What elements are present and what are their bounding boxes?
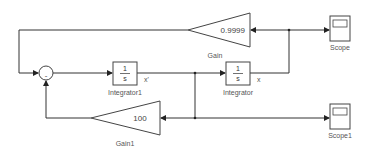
branch-point: [194, 72, 197, 75]
gain1-value: 100: [133, 114, 147, 123]
gain1-block[interactable]: 100: [91, 101, 160, 135]
signal-label-x: x: [257, 76, 261, 83]
integrator1-numerator: 1: [123, 65, 127, 72]
integrator1-block[interactable]: 1 s: [113, 62, 137, 85]
branch-point: [288, 29, 291, 32]
integrator-block[interactable]: 1 s: [226, 62, 250, 85]
integrator-denominator: s: [236, 75, 240, 82]
scope-label: Scope: [330, 44, 350, 52]
sum-sign: -: [45, 71, 48, 80]
scope-screen-icon: [333, 20, 347, 27]
gain1-label: Gain1: [116, 140, 135, 147]
integrator1-denominator: s: [123, 75, 127, 82]
gain-label: Gain: [208, 52, 223, 59]
gain-block[interactable]: 0.9999: [188, 13, 250, 47]
wire-integrator-out[interactable]: [250, 30, 289, 73]
branch-point: [194, 117, 197, 120]
signal-label-xprime: x': [144, 76, 149, 83]
scope1-label: Scope1: [328, 132, 352, 140]
integrator-numerator: 1: [236, 65, 240, 72]
simulink-diagram: - 1 s x' Integrator1 1 s x Integrator 0.…: [0, 0, 370, 156]
scope1-screen-icon: [333, 108, 347, 115]
scope-block[interactable]: [330, 16, 350, 41]
scope1-block[interactable]: [330, 104, 350, 129]
wire-gain1-to-sum[interactable]: [46, 81, 91, 118]
sum-block[interactable]: -: [39, 66, 53, 80]
gain-value: 0.9999: [221, 26, 246, 35]
integrator-label: Integrator: [223, 89, 254, 97]
integrator1-label: Integrator1: [108, 89, 142, 97]
